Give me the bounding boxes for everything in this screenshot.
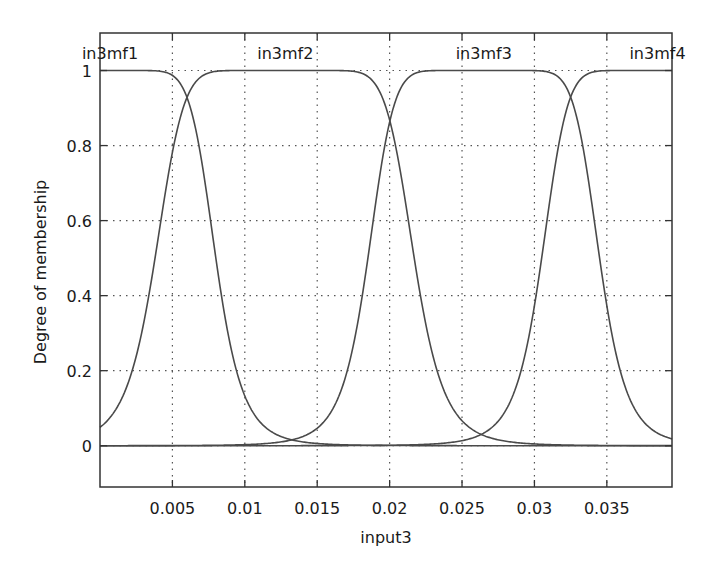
curve-label-in3mf2: in3mf2 (257, 44, 313, 63)
x-axis-tick-labels: 0.0050.010.0150.020.0250.030.035 (149, 499, 629, 518)
x-tick-label: 0.03 (517, 499, 553, 518)
membership-function-chart: 0.0050.010.0150.020.0250.030.035 00.20.4… (0, 0, 722, 566)
y-tick-label: 0.6 (67, 212, 92, 231)
x-tick-label: 0.02 (372, 499, 408, 518)
x-tick-label: 0.035 (584, 499, 630, 518)
curve-in3mf1 (100, 71, 672, 446)
curve-label-in3mf4: in3mf4 (629, 44, 685, 63)
y-tick-label: 0.4 (67, 287, 92, 306)
y-tick-label: 1 (82, 62, 92, 81)
x-tick-label: 0.015 (294, 499, 340, 518)
curve-in3mf3 (100, 71, 672, 446)
curve-in3mf4 (100, 71, 672, 446)
y-axis-tick-labels: 00.20.40.60.81 (67, 62, 92, 456)
y-tick-label: 0.8 (67, 137, 92, 156)
y-tick-label: 0.2 (67, 362, 92, 381)
x-tick-label: 0.025 (439, 499, 485, 518)
x-tick-label: 0.005 (149, 499, 195, 518)
curve-label-in3mf3: in3mf3 (456, 44, 512, 63)
x-tick-label: 0.01 (227, 499, 263, 518)
y-axis-label: Degree of membership (31, 180, 50, 365)
x-axis-label: input3 (360, 528, 411, 547)
curve-in3mf2 (100, 71, 672, 446)
membership-curves (100, 71, 672, 446)
curve-label-in3mf1: in3mf1 (82, 44, 138, 63)
y-tick-label: 0 (82, 437, 92, 456)
